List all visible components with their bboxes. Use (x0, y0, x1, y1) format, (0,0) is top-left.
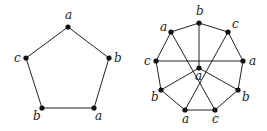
vertex-label: b (242, 90, 250, 104)
graph-edge (199, 68, 238, 90)
graph-vertex (158, 87, 163, 92)
vertex-label: a (95, 109, 102, 123)
graph-vertex (240, 58, 245, 63)
graph-edge (161, 90, 185, 110)
graph-edge (161, 68, 199, 90)
graph-diagram: ababcbcabcabcaa (0, 0, 267, 131)
graph-edge (238, 61, 243, 90)
vertex-label: a (182, 112, 189, 126)
graph-vertex (153, 58, 158, 63)
vertex-label: b (114, 51, 122, 65)
vertex-label: c (144, 54, 151, 68)
graph-vertex (225, 29, 230, 34)
vertex-label: a (249, 54, 256, 68)
vertex-label: c (232, 17, 239, 31)
graph-edge (171, 23, 199, 32)
graph-edge (156, 61, 161, 90)
vertex-label: a (65, 8, 72, 22)
graph-edge (26, 58, 42, 108)
vertex-label: a (195, 69, 202, 83)
nodes (23, 20, 245, 112)
graph-vertex (196, 20, 201, 25)
graph-vertex (106, 55, 111, 60)
vertex-label: c (212, 112, 219, 126)
graph-edge (26, 27, 68, 58)
graph-vertex (65, 24, 70, 29)
vertex-label: c (14, 51, 21, 65)
vertex-label: b (196, 4, 204, 18)
graph-edge (185, 32, 228, 110)
vertex-label: b (151, 90, 159, 104)
edges (26, 23, 243, 110)
graph-edge (228, 32, 243, 61)
graph-edge (199, 23, 228, 32)
graph-vertex (235, 87, 240, 92)
graph-edge (68, 27, 109, 58)
graph-edge (94, 58, 109, 108)
graph-edge (156, 32, 171, 61)
vertex-label: b (33, 109, 41, 123)
graph-vertex (23, 55, 28, 60)
vertex-label: a (160, 20, 167, 34)
graph-edge (215, 90, 238, 110)
graph-vertex (168, 29, 173, 34)
